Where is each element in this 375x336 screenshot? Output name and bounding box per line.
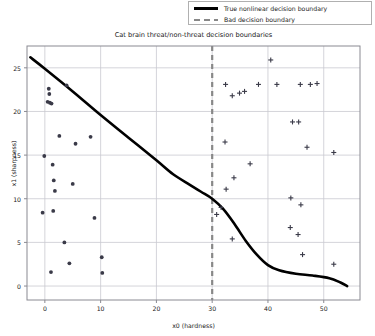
data-point-dot xyxy=(42,154,46,158)
data-point-dot xyxy=(100,271,104,275)
y-tick-label: 0 xyxy=(0,283,21,290)
y-tick-label: 10 xyxy=(0,195,21,202)
data-point-dot xyxy=(49,270,53,274)
data-point-dot xyxy=(51,209,55,213)
x-tick-label: 20 xyxy=(152,305,160,312)
x-tick-label: 10 xyxy=(97,305,105,312)
legend-entry-true-boundary: True nonlinear decision boundary xyxy=(193,4,367,14)
data-point-dot xyxy=(52,179,56,183)
y-tick-label: 25 xyxy=(0,64,21,71)
x-tick-label: 30 xyxy=(208,305,216,312)
data-point-dot xyxy=(62,240,66,244)
data-point-dot xyxy=(41,211,45,215)
data-point-dot xyxy=(67,261,71,265)
data-point-dot xyxy=(89,135,93,139)
x-tick-label: 0 xyxy=(43,305,47,312)
legend-label-true-boundary: True nonlinear decision boundary xyxy=(224,4,327,14)
data-point-dot xyxy=(65,83,69,87)
legend-entry-bad-boundary: Bad decision boundary xyxy=(193,15,367,25)
data-point-dot xyxy=(71,182,75,186)
y-tick-label: 15 xyxy=(0,152,21,159)
data-point-dot xyxy=(100,255,104,259)
x-tick-label: 50 xyxy=(320,305,328,312)
solid-line-swatch-icon xyxy=(193,4,219,14)
data-point-dot xyxy=(51,163,55,167)
x-axis-label: x0 (hardness) xyxy=(27,322,360,329)
y-tick-label: 5 xyxy=(0,239,21,246)
data-point-dot xyxy=(50,102,54,106)
data-point-dot xyxy=(53,189,57,193)
chart-legend: True nonlinear decision boundary Bad dec… xyxy=(188,1,372,25)
plot-area xyxy=(0,0,375,336)
data-point-dot xyxy=(74,142,78,146)
data-point-dot xyxy=(93,216,97,220)
y-tick-label: 20 xyxy=(0,108,21,115)
data-point-dot xyxy=(47,92,51,96)
chart-title: Cat brain threat/non-threat decision bou… xyxy=(27,31,360,39)
data-point-dot xyxy=(47,87,51,91)
legend-label-bad-boundary: Bad decision boundary xyxy=(224,15,295,25)
dashed-line-swatch-icon xyxy=(193,15,219,25)
data-point-dot xyxy=(57,134,61,138)
x-tick-label: 40 xyxy=(264,305,272,312)
chart-figure: True nonlinear decision boundary Bad dec… xyxy=(0,0,375,336)
